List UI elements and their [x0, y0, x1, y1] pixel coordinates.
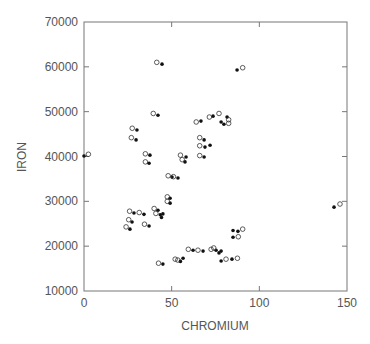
data-point-open — [180, 157, 185, 162]
data-point-open — [217, 111, 222, 116]
data-points — [82, 60, 342, 266]
data-point-filled — [183, 160, 187, 164]
data-point-open — [156, 261, 161, 266]
data-point-open — [166, 173, 171, 178]
data-point-open — [152, 206, 157, 211]
y-tick-label: 40000 — [45, 150, 79, 164]
data-point-open — [186, 247, 191, 252]
y-tick-label: 60000 — [45, 60, 79, 74]
data-point-filled — [132, 211, 136, 215]
data-point-filled — [217, 251, 221, 255]
data-point-open — [240, 227, 245, 232]
y-tick-label: 20000 — [45, 239, 79, 253]
data-point-open — [151, 111, 156, 116]
data-point-open — [178, 153, 183, 158]
data-point-filled — [191, 248, 195, 252]
data-point-open — [86, 152, 91, 157]
data-point-filled — [202, 155, 206, 159]
data-point-filled — [147, 224, 151, 228]
data-point-open — [224, 257, 229, 262]
data-point-open — [236, 234, 241, 239]
data-point-filled — [160, 62, 164, 66]
data-point-filled — [236, 230, 240, 234]
data-point-open — [143, 160, 148, 165]
data-point-open — [194, 120, 199, 125]
data-point-filled — [184, 155, 188, 159]
data-point-filled — [176, 176, 180, 180]
x-axis-ticks: 050100150 — [81, 22, 358, 310]
data-point-filled — [219, 259, 223, 263]
data-point-open — [124, 225, 129, 230]
data-point-filled — [219, 120, 223, 124]
y-tick-label: 70000 — [45, 15, 79, 29]
data-point-open — [154, 60, 159, 65]
x-axis-title: CHROMIUM — [181, 319, 248, 333]
y-tick-label: 30000 — [45, 194, 79, 208]
data-point-filled — [160, 216, 164, 220]
data-point-filled — [201, 249, 205, 253]
data-point-open — [126, 217, 131, 222]
data-point-filled — [332, 205, 336, 209]
data-point-open — [129, 135, 134, 140]
data-point-filled — [134, 138, 138, 142]
data-point-filled — [156, 113, 160, 117]
data-point-open — [127, 209, 132, 214]
y-tick-label: 50000 — [45, 105, 79, 119]
data-point-open — [235, 256, 240, 261]
data-point-filled — [181, 256, 185, 260]
data-point-filled — [231, 235, 235, 239]
data-point-open — [173, 257, 178, 262]
data-point-filled — [128, 227, 132, 231]
data-point-filled — [161, 262, 165, 266]
data-point-filled — [203, 145, 207, 149]
data-point-open — [137, 210, 142, 215]
data-point-open — [142, 222, 147, 227]
data-point-filled — [148, 153, 152, 157]
data-point-open — [154, 211, 159, 216]
x-tick-label: 0 — [81, 296, 88, 310]
data-point-filled — [199, 119, 203, 123]
data-point-filled — [208, 143, 212, 147]
data-point-open — [197, 143, 202, 148]
data-point-filled — [222, 122, 226, 126]
x-tick-label: 150 — [337, 296, 357, 310]
data-point-filled — [161, 212, 165, 216]
data-point-open — [197, 135, 202, 140]
data-point-filled — [230, 257, 234, 261]
data-point-open — [240, 65, 245, 70]
y-axis-title: IRON — [15, 142, 29, 172]
data-point-open — [207, 115, 212, 120]
x-tick-label: 50 — [165, 296, 179, 310]
data-point-filled — [82, 154, 86, 158]
data-point-open — [338, 202, 343, 207]
scatter-chart: 050100150 100002000030000400005000060000… — [0, 0, 370, 344]
data-point-filled — [202, 138, 206, 142]
data-point-filled — [235, 68, 239, 72]
data-point-open — [196, 248, 201, 253]
data-point-filled — [135, 128, 139, 132]
x-tick-label: 100 — [249, 296, 269, 310]
y-tick-label: 10000 — [45, 284, 79, 298]
y-axis-ticks: 10000200003000040000500006000070000 — [45, 15, 347, 298]
data-point-open — [143, 152, 148, 157]
data-point-open — [165, 199, 170, 204]
data-point-filled — [231, 229, 235, 233]
data-point-open — [130, 126, 135, 131]
data-point-open — [197, 153, 202, 158]
data-point-filled — [142, 213, 146, 217]
